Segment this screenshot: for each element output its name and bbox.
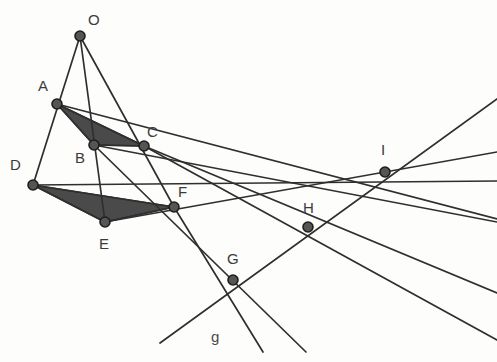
point-f[interactable]: [169, 202, 179, 212]
point-label-f: F: [178, 184, 187, 199]
point-c[interactable]: [139, 141, 149, 151]
point-e[interactable]: [100, 217, 110, 227]
point-label-c: C: [147, 124, 158, 139]
point-label-a: A: [38, 78, 48, 93]
point-a[interactable]: [52, 99, 62, 109]
segment-O-A-D: [33, 36, 80, 185]
line-label-g: g: [211, 329, 219, 344]
figure-canvas: [0, 0, 497, 362]
geometry-figure: OABCDEFGHIg: [0, 0, 497, 362]
point-label-g: G: [227, 251, 239, 266]
segment-line-D-through-F-H-I: [33, 181, 497, 185]
point-d[interactable]: [28, 180, 38, 190]
point-o[interactable]: [75, 31, 85, 41]
point-g[interactable]: [228, 275, 238, 285]
point-b[interactable]: [89, 140, 99, 150]
segment-line-C-through-H: [144, 146, 497, 293]
point-label-o: O: [88, 12, 100, 27]
point-label-e: E: [99, 236, 109, 251]
point-label-b: B: [75, 150, 85, 165]
segments-layer: [33, 36, 497, 352]
point-i[interactable]: [380, 167, 390, 177]
point-label-i: I: [381, 142, 385, 157]
point-label-h: H: [303, 200, 314, 215]
point-label-d: D: [10, 157, 21, 172]
segment-line-through-G-H-I: [160, 99, 497, 343]
point-h[interactable]: [303, 222, 313, 232]
